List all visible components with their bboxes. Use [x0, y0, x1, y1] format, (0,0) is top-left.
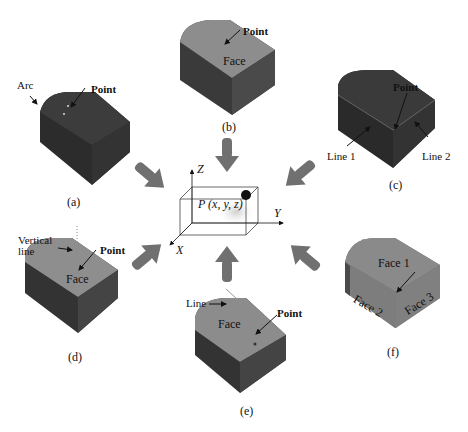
label-line-2: Line 2 [422, 150, 450, 162]
caption-b: (b) [222, 120, 236, 135]
axis-y-label: Y [274, 206, 281, 221]
label-face-1: Face 1 [378, 256, 410, 271]
label-arc: Arc [17, 79, 34, 91]
label-line-1: Line 1 [327, 150, 355, 162]
label-point-b: Point [243, 25, 268, 37]
label-vertical-line: Vertical line [18, 235, 60, 257]
label-face-b: Face [223, 54, 246, 69]
label-face-d: Face [66, 272, 89, 287]
caption-f: (f) [387, 345, 399, 360]
axis-x-label: X [176, 243, 183, 258]
caption-e: (e) [240, 404, 253, 419]
axis-z-label: Z [197, 162, 204, 177]
point-coordinates-label: P (x, y, z) [198, 197, 243, 212]
caption-d: (d) [68, 350, 82, 365]
solid-a [40, 92, 130, 185]
label-point-a: Point [91, 83, 116, 95]
label-point-e: Point [277, 307, 302, 319]
solid-f [345, 238, 440, 328]
caption-c: (c) [389, 178, 402, 193]
label-point-c: Point [393, 81, 418, 93]
label-face-e: Face [218, 317, 241, 332]
caption-a: (a) [67, 195, 80, 210]
label-point-d: Point [100, 244, 125, 256]
solid-e [195, 289, 286, 393]
label-line-e: Line [186, 297, 206, 309]
